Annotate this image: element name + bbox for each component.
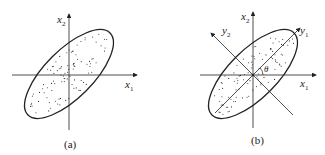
subscript: 2 [246, 17, 250, 25]
subscript: 2 [62, 20, 66, 28]
subscript: 2 [227, 31, 231, 39]
origin-point [252, 74, 255, 77]
y2-label: y2 [222, 25, 230, 39]
subscript: 1 [305, 31, 309, 39]
theta-arc [260, 68, 263, 75]
caption-b: (b) [251, 135, 264, 146]
y2-axis [211, 33, 293, 115]
x2-label-a: x2 [57, 14, 65, 28]
y1-label: y1 [300, 25, 308, 39]
caption-a: (a) [64, 139, 76, 150]
subscript: 1 [130, 85, 134, 93]
panel-a [11, 14, 137, 132]
x1-label-a: x1 [125, 79, 133, 93]
panel-b [195, 12, 316, 132]
theta-label: θ [264, 65, 268, 74]
subscript: 1 [305, 84, 309, 92]
x2-label-b: x2 [241, 11, 249, 25]
x1-label-b: x1 [300, 78, 308, 92]
diagram-canvas [0, 0, 325, 155]
scatter-points-a [30, 34, 107, 114]
